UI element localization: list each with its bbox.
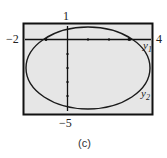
y2-label: y2 xyxy=(141,88,150,102)
y1-label: y1 xyxy=(143,40,152,54)
xmin-label: −2 xyxy=(6,33,19,45)
xmax-label: 4 xyxy=(156,33,162,45)
y2-label-sub: 2 xyxy=(146,93,150,102)
intersection-point-left xyxy=(45,38,48,41)
calculator-graph xyxy=(0,0,167,158)
ymin-label: −5 xyxy=(59,117,72,129)
ymax-label: 1 xyxy=(63,10,69,22)
y1-label-sub: 1 xyxy=(148,45,152,54)
intersection-point-right xyxy=(128,38,131,41)
graph-window-frame xyxy=(24,24,153,115)
figure-caption: (c) xyxy=(78,137,91,149)
